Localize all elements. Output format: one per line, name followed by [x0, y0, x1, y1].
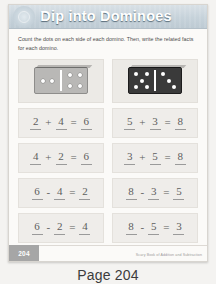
domino-half-right	[62, 68, 87, 93]
equation-operator: +	[44, 116, 52, 130]
equation-row: 6 - 2 = 4	[18, 213, 104, 243]
equation-row: 8 - 3 = 5	[112, 178, 198, 208]
equation-operand-a[interactable]: 2	[30, 115, 41, 130]
equation-operand-a[interactable]: 6	[32, 220, 43, 235]
equation-operand-a[interactable]: 4	[30, 150, 41, 165]
equation-right-2: 3 + 5 = 8	[124, 150, 185, 165]
equation-operand-b[interactable]: 2	[56, 150, 67, 165]
equation-operator: -	[46, 221, 52, 235]
equation-operand-b[interactable]: 4	[56, 115, 67, 130]
equation-result[interactable]: 8	[175, 115, 186, 130]
equation-operator: +	[138, 151, 146, 165]
equals-sign: =	[68, 186, 76, 200]
worksheet-footer: 204 Scary Book of Addition and Subtracti…	[9, 245, 207, 261]
equation-operand-b[interactable]: 5	[150, 150, 161, 165]
domino-panel-right	[112, 59, 198, 103]
problem-column-left: 2 + 4 = 6 4 + 2 = 6	[18, 59, 104, 243]
equation-row: 6 - 4 = 2	[18, 178, 104, 208]
source-credit-text: Scary Book of Addition and Subtraction	[136, 253, 202, 257]
equation-right-1: 5 + 3 = 8	[124, 115, 185, 130]
equation-operator: -	[140, 186, 146, 200]
equation-row: 8 - 5 = 3	[112, 213, 198, 243]
equation-operand-b[interactable]: 4	[54, 185, 65, 200]
worksheet-sheet: Dip into Dominoes Count the dots on each…	[8, 4, 208, 262]
equation-result[interactable]: 3	[173, 220, 184, 235]
equation-result[interactable]: 6	[81, 115, 92, 130]
page-title: Dip into Dominoes	[9, 8, 203, 24]
equation-operator: +	[44, 151, 52, 165]
equation-left-2: 4 + 2 = 6	[30, 150, 91, 165]
equation-operand-a[interactable]: 8	[126, 185, 137, 200]
equation-operand-b[interactable]: 3	[150, 115, 161, 130]
page-number-tab: 204	[9, 245, 39, 261]
equals-sign: =	[68, 221, 76, 235]
equation-operand-a[interactable]: 6	[32, 185, 43, 200]
equation-result[interactable]: 6	[81, 150, 92, 165]
problem-columns: 2 + 4 = 6 4 + 2 = 6	[9, 58, 207, 243]
equation-row: 3 + 5 = 8	[112, 143, 198, 173]
equals-sign: =	[70, 116, 78, 130]
equation-operator: -	[140, 221, 146, 235]
equation-left-4: 6 - 2 = 4	[32, 220, 91, 235]
equation-result[interactable]: 5	[173, 185, 184, 200]
equation-operand-a[interactable]: 5	[124, 115, 135, 130]
domino-half-left	[129, 68, 154, 93]
equation-operand-b[interactable]: 5	[148, 220, 159, 235]
equation-left-3: 6 - 4 = 2	[32, 185, 91, 200]
equals-sign: =	[162, 186, 170, 200]
domino-half-left	[35, 68, 60, 93]
domino-tile-left	[34, 67, 88, 94]
equation-row: 2 + 4 = 6	[18, 108, 104, 138]
equation-operand-b[interactable]: 3	[148, 185, 159, 200]
equation-row: 5 + 3 = 8	[112, 108, 198, 138]
equation-operand-b[interactable]: 2	[54, 220, 65, 235]
problem-column-right: 5 + 3 = 8 3 + 5 = 8	[112, 59, 198, 243]
equation-operator: -	[46, 186, 52, 200]
equation-result[interactable]: 4	[79, 220, 90, 235]
domino-tile-right	[128, 67, 182, 94]
equals-sign: =	[162, 221, 170, 235]
equation-result[interactable]: 8	[175, 150, 186, 165]
equals-sign: =	[70, 151, 78, 165]
equation-operand-a[interactable]: 3	[124, 150, 135, 165]
equation-row: 4 + 2 = 6	[18, 143, 104, 173]
equals-sign: =	[164, 151, 172, 165]
domino-panel-left	[18, 59, 104, 103]
instructions-text: Count the dots on each side of each domi…	[9, 29, 207, 58]
equation-operator: +	[138, 116, 146, 130]
equation-result[interactable]: 2	[79, 185, 90, 200]
domino-half-right	[156, 68, 181, 93]
equation-operand-a[interactable]: 8	[126, 220, 137, 235]
worksheet-header: Dip into Dominoes	[9, 5, 207, 29]
equals-sign: =	[164, 116, 172, 130]
worksheet-page-screenshot: Dip into Dominoes Count the dots on each…	[0, 0, 216, 284]
page-caption: Page 204	[0, 267, 216, 283]
equation-right-3: 8 - 3 = 5	[126, 185, 185, 200]
equation-left-1: 2 + 4 = 6	[30, 115, 91, 130]
equation-right-4: 8 - 5 = 3	[126, 220, 185, 235]
